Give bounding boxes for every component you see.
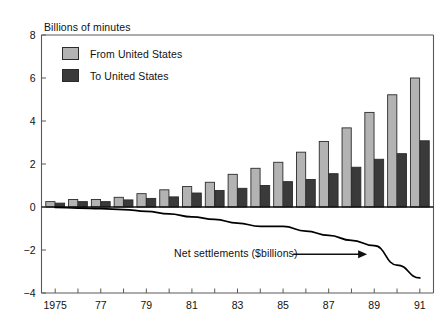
- bar-to-united-states: [306, 179, 315, 207]
- bar-from-united-states: [274, 162, 283, 207]
- x-tick-label: 89: [368, 299, 380, 311]
- y-axis-title: Billions of minutes: [44, 21, 131, 33]
- bar-to-united-states: [329, 174, 338, 207]
- bar-to-united-states: [169, 197, 178, 207]
- bar-from-united-states: [319, 141, 328, 207]
- bar-from-united-states: [296, 152, 305, 207]
- y-tick-label: 8: [30, 29, 36, 41]
- bar-from-united-states: [251, 168, 260, 207]
- bar-to-united-states: [260, 186, 269, 208]
- chart-figure: Billions of minutes From United States T…: [0, 0, 445, 330]
- x-tick-label: 91: [414, 299, 426, 311]
- bar-from-united-states: [342, 128, 351, 207]
- annotation-arrow-head: [358, 250, 367, 258]
- bar-to-united-states: [238, 188, 247, 207]
- bar-from-united-states: [388, 95, 397, 207]
- bar-from-united-states: [160, 190, 169, 207]
- bar-to-united-states: [124, 200, 133, 207]
- legend-label-from-united-states: From United States: [90, 48, 182, 60]
- bar-from-united-states: [137, 194, 146, 207]
- y-tick-label: 0: [30, 201, 36, 213]
- legend-item-to-united-states: To United States: [62, 67, 182, 84]
- y-tick-label: −4: [24, 287, 36, 299]
- x-tick-label: 79: [140, 299, 152, 311]
- bar-to-united-states: [374, 159, 383, 207]
- bar-from-united-states: [410, 78, 419, 207]
- y-tick-label: 6: [30, 72, 36, 84]
- x-tick-label: 81: [186, 299, 198, 311]
- x-tick-label: 87: [323, 299, 335, 311]
- bar-to-united-states: [192, 193, 201, 207]
- legend-item-from-united-states: From United States: [62, 45, 182, 62]
- y-tick-label: 4: [30, 115, 36, 127]
- legend-swatch-from-united-states: [62, 47, 79, 60]
- bar-from-united-states: [69, 199, 78, 207]
- bar-group-from-united-states: [46, 78, 420, 207]
- bar-to-united-states: [215, 190, 224, 207]
- x-tick-label: 85: [277, 299, 289, 311]
- y-tick-label: 2: [30, 158, 36, 170]
- bar-to-united-states: [420, 141, 429, 207]
- bar-to-united-states: [397, 154, 406, 207]
- bar-to-united-states: [352, 167, 361, 207]
- x-tick-label: 77: [95, 299, 107, 311]
- bar-from-united-states: [228, 174, 237, 207]
- bar-to-united-states: [283, 182, 292, 207]
- bar-from-united-states: [183, 187, 192, 207]
- x-tick-label: 83: [232, 299, 244, 311]
- net-settlements-path: [55, 207, 420, 278]
- bar-to-united-states: [147, 198, 156, 207]
- net-settlements-line: [55, 207, 420, 278]
- bar-from-united-states: [91, 199, 100, 207]
- bar-from-united-states: [114, 197, 123, 207]
- bar-from-united-states: [365, 112, 374, 207]
- legend-swatch-to-united-states: [62, 69, 79, 82]
- chart-legend: From United States To United States: [62, 45, 182, 89]
- x-tick-label: 1975: [44, 299, 68, 311]
- legend-label-to-united-states: To United States: [90, 70, 169, 82]
- y-tick-label: −2: [24, 244, 36, 256]
- annotation-arrow: [293, 250, 367, 258]
- annotation-net-settlements: Net settlements ($billions): [174, 247, 298, 259]
- bar-from-united-states: [205, 182, 214, 207]
